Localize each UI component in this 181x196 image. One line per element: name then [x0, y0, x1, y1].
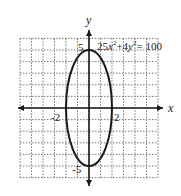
ellipse-graph	[0, 0, 181, 196]
eq-plus: +4	[116, 40, 128, 52]
x-axis-label: x	[168, 102, 173, 114]
x-tick-neg2: -2	[51, 112, 60, 123]
y-axis-label: y	[86, 14, 91, 26]
x-tick-2: 2	[114, 112, 120, 123]
axes	[18, 30, 163, 186]
y-tick-neg5: -5	[72, 164, 81, 175]
eq-rhs: = 100	[137, 40, 162, 52]
eq-coef-a: 25	[97, 40, 108, 52]
equation-label: 25x2+4y2= 100	[97, 40, 162, 52]
y-tick-5: 5	[78, 42, 84, 53]
